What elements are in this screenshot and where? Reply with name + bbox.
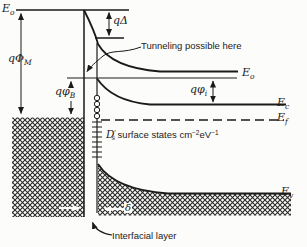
label-text: φ bbox=[62, 85, 70, 98]
label-text: Φ bbox=[15, 52, 24, 65]
label-text: E bbox=[277, 111, 285, 124]
label-text: E bbox=[2, 2, 10, 15]
label-text: E bbox=[277, 96, 285, 109]
label-text: q bbox=[55, 85, 62, 98]
interface-state-circles bbox=[94, 95, 99, 118]
label-text: E bbox=[242, 66, 250, 79]
label-text: Δ bbox=[120, 14, 128, 27]
label-text: Tunneling possible here bbox=[141, 40, 242, 51]
label-tunneling-note: Tunneling possible here bbox=[141, 41, 242, 51]
label-barrier-height: qφB bbox=[55, 86, 75, 99]
label-band-bending: qφi bbox=[190, 84, 207, 97]
label-unit: eV bbox=[200, 129, 212, 140]
interfacial-layer-leader-arrow bbox=[93, 223, 113, 236]
diagram-linework bbox=[0, 0, 307, 247]
label-vacuum-level-metal: Eo bbox=[2, 3, 15, 16]
metal-region-hatch bbox=[12, 118, 84, 218]
label-exp: −1 bbox=[211, 129, 218, 136]
label-sub: M bbox=[24, 58, 32, 67]
label-interfacial-layer: Interfacial layer bbox=[112, 231, 176, 241]
interface-state-circle bbox=[94, 113, 99, 118]
label-sub: B bbox=[70, 91, 76, 100]
label-fermi-level: Ef bbox=[277, 112, 288, 125]
label-text: surface states bbox=[115, 129, 179, 140]
label-sub: v bbox=[289, 191, 293, 200]
label-text: q bbox=[190, 83, 197, 96]
label-vacuum-level-semiconductor: Eo bbox=[242, 67, 255, 80]
label-metal-work-function: qΦM bbox=[8, 53, 32, 66]
label-layer-thickness: δ bbox=[124, 203, 132, 213]
label-text: δ bbox=[125, 202, 131, 213]
label-text: q bbox=[8, 52, 15, 65]
label-sub: o bbox=[10, 8, 15, 17]
label-text: q bbox=[113, 14, 120, 27]
label-valence-band: Ev bbox=[281, 186, 293, 199]
label-conduction-band: Ec bbox=[277, 97, 289, 110]
label-sub: o bbox=[250, 72, 255, 81]
interface-state-circle bbox=[94, 95, 99, 100]
interface-state-circle bbox=[94, 101, 99, 106]
label-sub: f bbox=[285, 117, 288, 126]
label-surface-states: D′s surface states cm−2eV−1 bbox=[106, 129, 219, 142]
label-interfacial-drop: qΔ bbox=[113, 15, 128, 26]
label-sub: i bbox=[205, 89, 207, 98]
label-text: φ bbox=[197, 83, 205, 96]
label-exp: −2 bbox=[192, 129, 199, 136]
label-text: E bbox=[281, 185, 289, 198]
label-sub: c bbox=[285, 102, 289, 111]
interface-state-circle bbox=[94, 107, 99, 112]
label-text: Interfacial layer bbox=[112, 230, 176, 241]
energy-band-diagram: Eo qΦM qΔ qφB Tunneling possible here Eo… bbox=[0, 0, 307, 247]
label-unit: cm bbox=[179, 129, 192, 140]
